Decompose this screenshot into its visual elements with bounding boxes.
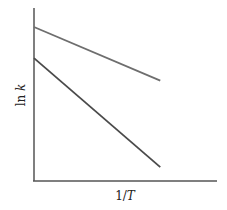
- arrhenius-chart: 1/T ln k: [0, 0, 227, 210]
- lower-line: [34, 58, 160, 167]
- x-axis-label: 1/T: [115, 189, 136, 203]
- upper-line: [34, 27, 160, 81]
- y-axis-label: ln k: [14, 84, 28, 107]
